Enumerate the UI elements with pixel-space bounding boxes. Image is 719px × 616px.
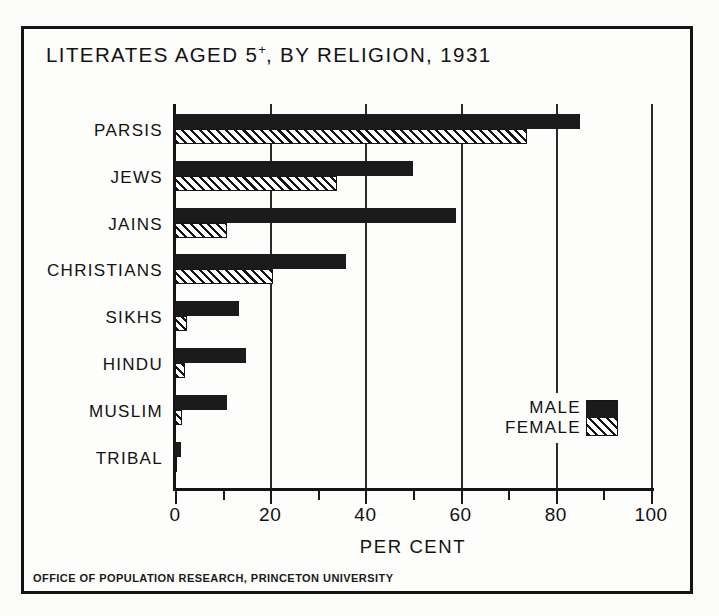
x-tick-40 — [365, 491, 367, 504]
x-tick-100 — [651, 491, 653, 504]
bar-male-muslim — [175, 395, 227, 410]
bar-female-christians — [175, 269, 273, 284]
chart-title-rest: , BY RELIGION, 1931 — [266, 43, 492, 66]
gridline-100 — [651, 104, 653, 488]
bar-male-jains — [175, 208, 456, 223]
category-label-muslim: MUSLIM — [89, 402, 163, 422]
x-tick-0 — [175, 491, 177, 504]
legend-label-male: MALE — [505, 398, 581, 418]
figure-source-note: OFFICE OF POPULATION RESEARCH, PRINCETON… — [33, 572, 394, 584]
legend-swatch-male — [587, 401, 617, 418]
chart-legend: MALE FEMALE — [505, 398, 618, 438]
x-minor-tick-10 — [223, 491, 225, 500]
gridline-60 — [461, 104, 463, 488]
x-minor-tick-50 — [413, 491, 415, 500]
x-axis-title: PER CENT — [360, 536, 466, 558]
x-minor-tick-70 — [508, 491, 510, 500]
category-label-sikhs: SIKHS — [105, 308, 163, 328]
category-label-parsis: PARSIS — [94, 121, 163, 141]
category-label-christians: CHRISTIANS — [47, 261, 163, 281]
bar-male-christians — [175, 254, 346, 269]
x-minor-tick-90 — [603, 491, 605, 500]
bar-male-hindu — [175, 348, 246, 363]
category-label-jews: JEWS — [111, 168, 163, 188]
x-tick-80 — [556, 491, 558, 504]
category-label-hindu: HINDU — [103, 355, 163, 375]
x-tick-20 — [270, 491, 272, 504]
legend-swatch-female — [587, 418, 617, 435]
bar-female-parsis — [175, 129, 527, 144]
x-tick-label-0: 0 — [169, 504, 180, 526]
x-tick-label-20: 20 — [259, 504, 281, 526]
bar-female-tribal — [175, 457, 177, 472]
figure-root: LITERATES AGED 5+, BY RELIGION, 1931 PER… — [0, 0, 719, 616]
bar-male-jews — [175, 161, 413, 176]
chart-title-main: LITERATES AGED 5 — [46, 43, 258, 66]
legend-label-female: FEMALE — [505, 418, 581, 438]
bar-female-hindu — [175, 363, 185, 378]
x-tick-label-40: 40 — [354, 504, 376, 526]
legend-swatches — [586, 400, 618, 436]
bar-male-sikhs — [175, 301, 239, 316]
bar-male-parsis — [175, 114, 580, 129]
category-label-jains: JAINS — [108, 215, 163, 235]
chart-title-superscript: + — [258, 42, 266, 57]
bar-female-sikhs — [175, 316, 187, 331]
bar-female-jews — [175, 176, 337, 191]
x-tick-60 — [461, 491, 463, 504]
x-minor-tick-30 — [318, 491, 320, 500]
category-label-tribal: TRIBAL — [96, 449, 163, 469]
bar-female-jains — [175, 223, 227, 238]
legend-labels: MALE FEMALE — [505, 398, 581, 438]
chart-title: LITERATES AGED 5+, BY RELIGION, 1931 — [46, 42, 492, 67]
x-tick-label-80: 80 — [545, 504, 567, 526]
x-tick-label-60: 60 — [450, 504, 472, 526]
bar-female-muslim — [175, 410, 182, 425]
x-tick-label-100: 100 — [634, 504, 667, 526]
bar-male-tribal — [175, 442, 181, 457]
